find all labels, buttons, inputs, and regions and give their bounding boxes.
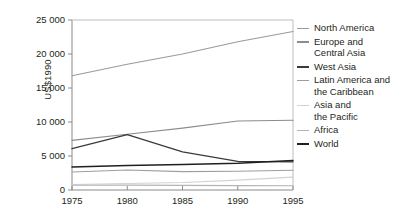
legend-item[interactable]: North America xyxy=(297,22,412,34)
legend-item[interactable]: Asia and the Pacific xyxy=(297,99,412,122)
series-line-north-america xyxy=(72,32,293,76)
legend-item[interactable]: World xyxy=(297,138,412,150)
legend-swatch-line-icon xyxy=(297,130,309,132)
x-ticks xyxy=(72,186,293,190)
legend-swatch-line-icon xyxy=(297,143,309,145)
legend-swatch-line-icon xyxy=(297,80,309,82)
legend-item[interactable]: West Asia xyxy=(297,61,412,73)
legend-label: West Asia xyxy=(314,61,356,73)
chart-figure: US$1990 05 00010 00015 00020 00025 000 1… xyxy=(0,0,412,217)
legend-label: Europe and Central Asia xyxy=(314,36,365,59)
legend-swatch-line-icon xyxy=(297,105,309,107)
series-line-europe-and-central-asia xyxy=(72,120,293,140)
series-line-asia-and-the-pacific xyxy=(72,177,293,184)
series-line-world xyxy=(72,160,293,166)
legend-label: Asia and the Pacific xyxy=(314,99,358,122)
legend-swatch-line-icon xyxy=(297,41,309,43)
legend-swatch-line-icon xyxy=(297,28,309,30)
legend-label: Latin America and the Caribbean xyxy=(314,74,390,97)
legend-item[interactable]: Africa xyxy=(297,124,412,136)
legend-swatch-line-icon xyxy=(297,66,309,68)
legend-label: Africa xyxy=(314,124,338,136)
legend-item[interactable]: Europe and Central Asia xyxy=(297,36,412,59)
series-lines xyxy=(72,32,293,186)
y-ticks xyxy=(68,20,72,190)
chart-legend: North AmericaEurope and Central AsiaWest… xyxy=(297,22,412,151)
legend-label: North America xyxy=(314,22,374,34)
series-line-africa xyxy=(72,185,293,186)
legend-label: World xyxy=(314,138,339,150)
legend-item[interactable]: Latin America and the Caribbean xyxy=(297,74,412,97)
series-line-latin-america-and-the-caribbean xyxy=(72,170,293,172)
series-line-west-asia xyxy=(72,135,293,162)
